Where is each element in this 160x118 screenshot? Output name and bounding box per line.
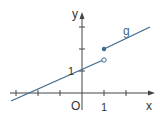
graph-g-left-piece — [11, 61, 102, 102]
origin-label: O — [71, 99, 80, 113]
function-graph: g y x O 1 1 — [0, 0, 160, 118]
x-axis-arrow-icon — [148, 91, 155, 96]
function-label: g — [123, 24, 130, 38]
y-axis-arrow-icon — [80, 12, 85, 19]
open-endpoint-marker — [102, 58, 106, 62]
y-tick-label-1: 1 — [68, 65, 74, 77]
x-axis-label: x — [146, 99, 152, 113]
y-axis-label: y — [72, 7, 78, 21]
x-tick-label-1: 1 — [101, 101, 107, 113]
filled-endpoint-marker — [102, 47, 106, 51]
